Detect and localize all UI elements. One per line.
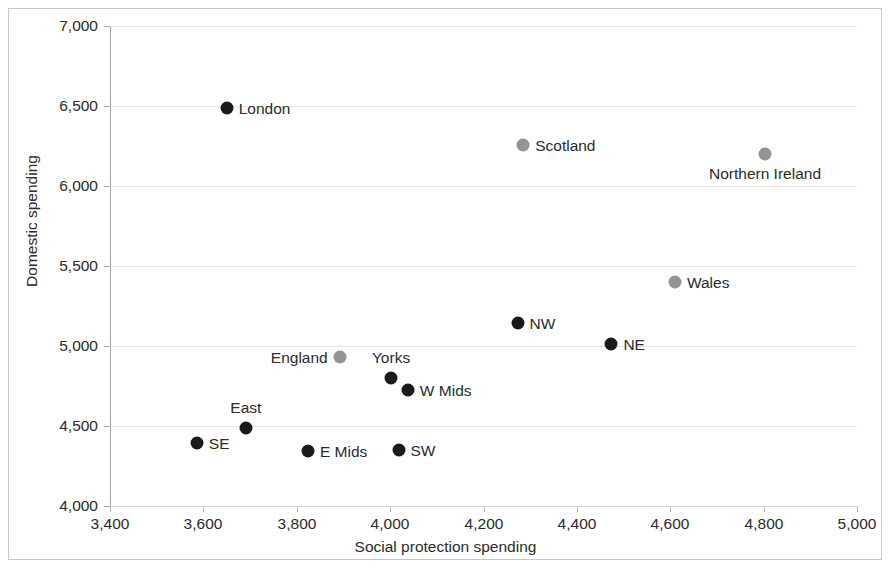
x-tick-label: 4,800 bbox=[745, 516, 784, 532]
y-tick-label: 6,500 bbox=[59, 98, 98, 114]
data-point-label: Scotland bbox=[535, 138, 595, 154]
y-tick-label: 5,000 bbox=[59, 338, 98, 354]
y-axis-title: Domestic spending bbox=[23, 121, 41, 321]
gridline bbox=[110, 266, 857, 267]
data-point[interactable] bbox=[759, 148, 772, 161]
x-tick-label: 3,600 bbox=[184, 516, 223, 532]
data-point-label: NE bbox=[623, 337, 645, 353]
data-point-label: England bbox=[271, 350, 328, 366]
data-point-label: Wales bbox=[687, 275, 730, 291]
data-point-label: SW bbox=[411, 443, 436, 459]
data-point[interactable] bbox=[605, 337, 618, 350]
y-tick-label: 5,500 bbox=[59, 258, 98, 274]
data-point[interactable] bbox=[668, 276, 681, 289]
data-point-label: NW bbox=[530, 316, 556, 332]
data-point[interactable] bbox=[385, 372, 398, 385]
plot-area: LondonScotlandNorthern IrelandWalesNWNEE… bbox=[110, 26, 857, 506]
scatter-chart-screenshot: Domestic spending Social protection spen… bbox=[0, 0, 891, 576]
x-tick-label: 4,600 bbox=[651, 516, 690, 532]
data-point-label: W Mids bbox=[420, 383, 472, 399]
data-point[interactable] bbox=[333, 351, 346, 364]
gridline bbox=[110, 346, 857, 347]
x-axis-title: Social protection spending bbox=[0, 538, 891, 556]
x-tick-label: 4,400 bbox=[558, 516, 597, 532]
x-tick-label: 5,000 bbox=[838, 516, 877, 532]
data-point[interactable] bbox=[239, 421, 252, 434]
gridline bbox=[110, 506, 857, 507]
data-point-label: East bbox=[230, 399, 261, 415]
y-tick-label: 4,000 bbox=[59, 498, 98, 514]
gridline bbox=[110, 426, 857, 427]
y-tick-label: 6,000 bbox=[59, 178, 98, 194]
data-point[interactable] bbox=[401, 384, 414, 397]
data-point[interactable] bbox=[220, 101, 233, 114]
x-tick-label: 3,400 bbox=[91, 516, 130, 532]
data-point[interactable] bbox=[190, 436, 203, 449]
data-point-label: Northern Ireland bbox=[709, 166, 821, 182]
x-tick-label: 3,800 bbox=[278, 516, 317, 532]
x-tick-label: 4,000 bbox=[371, 516, 410, 532]
data-point[interactable] bbox=[511, 316, 524, 329]
data-point-label: E Mids bbox=[320, 444, 367, 460]
gridline bbox=[110, 26, 857, 27]
data-point[interactable] bbox=[517, 139, 530, 152]
y-tick-label: 4,500 bbox=[59, 418, 98, 434]
y-tick-label: 7,000 bbox=[59, 18, 98, 34]
data-point[interactable] bbox=[392, 444, 405, 457]
data-point-label: SE bbox=[209, 436, 230, 452]
gridline bbox=[110, 186, 857, 187]
data-point-label: Yorks bbox=[372, 350, 410, 366]
data-point[interactable] bbox=[301, 444, 314, 457]
data-point-label: London bbox=[239, 101, 291, 117]
x-tick-label: 4,200 bbox=[465, 516, 504, 532]
